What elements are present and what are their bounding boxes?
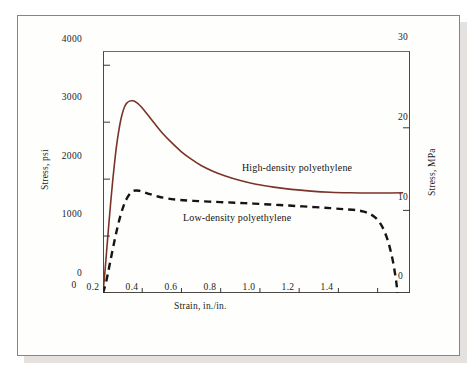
x-tick-0-6: 0.6 [159, 282, 183, 292]
figure-root: 4000 3000 2000 1000 0 30 20 10 0 0 0.2 0… [0, 0, 475, 370]
scanned-page: 4000 3000 2000 1000 0 30 20 10 0 0 0.2 0… [17, 15, 460, 356]
series-layer [103, 101, 403, 293]
left-tick-1000: 1000 [32, 209, 82, 219]
left-tick-4000: 4000 [32, 34, 82, 44]
right-tick-0: 0 [398, 271, 428, 281]
bottom-axis-title: Strain, in./in. [174, 301, 227, 311]
right-axis-title: Stress, MPa [427, 148, 437, 196]
left-tick-3000: 3000 [32, 92, 82, 102]
x-tick-1-4: 1.4 [315, 282, 339, 292]
series-line-ldpe [103, 190, 397, 293]
x-tick-1-2: 1.2 [276, 282, 300, 292]
hdpe-curve-label: High-density polyethylene [242, 162, 352, 173]
right-tick-10: 10 [398, 192, 428, 202]
ldpe-curve-label: Low-density polyethylene [183, 212, 291, 223]
right-tick-30: 30 [398, 32, 428, 42]
right-tick-20: 20 [398, 112, 428, 122]
x-tick-0-4: 0.4 [120, 282, 144, 292]
series-line-hdpe [103, 101, 403, 293]
x-tick-1-0: 1.0 [237, 282, 261, 292]
x-tick-0-2: 0.2 [81, 282, 105, 292]
left-tick-0: 0 [32, 268, 82, 278]
left-axis-title: Stress, psi [40, 149, 50, 190]
x-tick-0-8: 0.8 [198, 282, 222, 292]
